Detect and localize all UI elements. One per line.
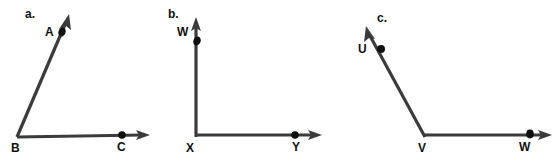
point-label-u: U — [358, 42, 367, 56]
vertex-label-b: B — [11, 141, 20, 155]
angles-figure: a. A C B b. W Y — [0, 0, 560, 165]
point-dot-w-b — [192, 35, 202, 46]
point-label-w-c: W — [519, 140, 531, 154]
angle-group-b: b. W Y X — [168, 7, 322, 155]
point-dot-u — [377, 45, 385, 53]
point-dot-y — [291, 131, 299, 139]
angle-group-c: c. U W V — [358, 11, 552, 155]
ray-b-to-a — [17, 22, 66, 137]
vertex-label-v: V — [418, 141, 426, 155]
point-label-w-b: W — [177, 25, 189, 39]
angles-diagram-canvas: a. A C B b. W Y — [0, 0, 560, 165]
vertex-label-x: X — [186, 141, 194, 155]
angle-group-a: a. A C B — [11, 7, 150, 155]
point-dot-c — [118, 131, 126, 139]
point-dot-w-c — [526, 130, 534, 139]
point-label-a: A — [45, 25, 54, 39]
point-label-y: Y — [292, 140, 300, 154]
part-label-b: b. — [168, 7, 179, 21]
point-label-c: C — [117, 140, 126, 154]
part-label-a: a. — [25, 7, 35, 21]
part-label-c: c. — [377, 11, 387, 25]
